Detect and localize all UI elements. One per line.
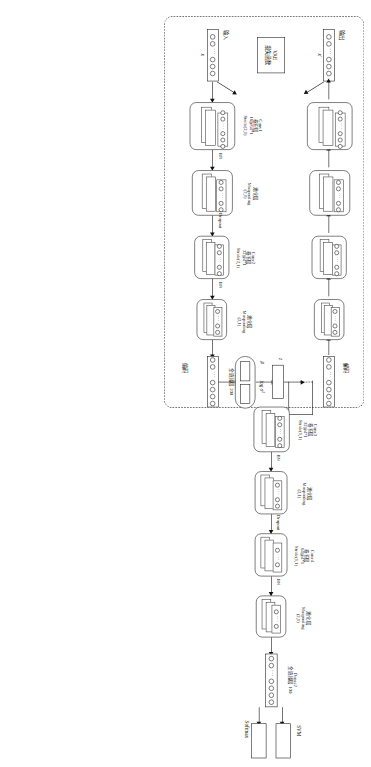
ellipsis: ··· [221,123,226,129]
neuron [275,497,280,502]
arrow-conv3-to-pool3 [271,452,272,468]
neuron [221,138,226,143]
neuron [327,380,332,385]
neuron [275,548,280,553]
arrow-decconv1-to-output [329,82,330,99]
neuron [338,138,343,143]
neuron [217,265,222,270]
arrow-decdense-to-decpool2 [329,340,330,355]
layer-spec: 200 [229,388,234,395]
neuron [327,71,332,76]
neuron [221,131,226,136]
slab-front: ··· [334,180,344,213]
neuron [334,271,339,276]
ellipsis: ··· [334,316,339,322]
neuron [217,250,222,255]
neuron [333,324,338,329]
arrow-decconv2-to-decpool1 [329,216,330,233]
neuron [210,401,215,406]
neuron [210,41,215,46]
layer-label-conv1: Conv1 卷积层 16@64*1 Stride(2,1) [243,98,263,154]
neuron [269,700,274,705]
neuron [216,309,221,314]
svm-box[interactable] [276,723,291,758]
layer-block-conv2-encoder: ··· [194,236,229,279]
neuron [334,265,339,270]
neuron [336,207,341,212]
z-label: z [277,358,283,360]
arrow-pool4-to-dense2 [271,637,272,652]
neuron [217,271,222,276]
layer-label-conv2: Conv2 卷积层 32@4*1 Stride(2,1) [236,231,256,284]
layer-cn-type: 池化层 [247,315,252,329]
vae-loss-line2: 损失函数 [265,45,271,66]
neuron [221,117,226,122]
logvar-box [240,384,250,404]
neuron [274,624,279,629]
layer-name: Conv4 [309,550,314,562]
layer-spec: Maxpooling [242,311,247,334]
ellipsis: ··· [338,123,343,129]
neuron [210,57,215,62]
softmax-box[interactable] [251,723,266,758]
neuron [277,422,282,427]
neuron [275,503,280,508]
slab-front: ··· [273,481,282,511]
figure-canvas: ··· 输入 x ··· 输出 x' VAE 损失函数 ··· [0,0,371,767]
connector-label-bn-1: BN [217,153,222,159]
layer-stride: Stride(1,1) [294,546,299,566]
decoder-dense-vector: ··· [323,356,335,407]
ellipsis: ··· [275,616,280,622]
neuron [269,693,274,698]
neuron [277,416,282,421]
layer-block-pool2-decoder: ··· [314,299,344,340]
neuron [221,144,226,149]
slab-mid [266,413,275,447]
layer-block-pool4: ··· [256,596,286,638]
layer-label-dense2: Dense2 全连接层 100 [288,651,298,709]
slab-front: ··· [216,180,226,213]
layer-block-conv2-decoder: ··· [312,236,347,279]
arrow-pool1-to-conv2 [212,216,213,233]
neuron [210,380,215,385]
layer-stride: Stride(1,1) [298,420,303,440]
arrow-dense2-to-svm [282,707,283,722]
neuron [210,357,215,362]
neuron [333,330,338,335]
dense2-vector: ··· [265,654,277,707]
arrow-dense1-to-latent [219,382,236,383]
neuron [327,57,332,62]
slab-front: ··· [272,605,281,633]
z-dashed-link [300,382,313,383]
layer-spec: 100 [288,686,293,693]
layer-name: Conv1 [258,119,263,131]
mu-box [240,361,250,381]
layer-stride: (2,1) [297,489,302,498]
vae-loss-line1: VAE [272,50,278,60]
arrow-decpool1-to-decconv1 [329,150,330,167]
connector-label-bn-4: BN [276,579,281,585]
slab-mid [323,110,333,146]
layer-block-pool1-decoder: ··· [309,170,350,215]
layer-stride: (2,1) [296,614,301,623]
neuron [277,437,282,442]
neuron [334,244,339,249]
mu-label: μ [260,361,266,364]
layer-cn-type: 池化层 [252,187,257,201]
neuron [216,324,221,329]
layer-spec: Maxpooling [302,483,307,506]
layer-block-conv3: ··· [254,407,290,452]
ellipsis: ··· [327,48,332,55]
softmax-label: Softmax [243,721,249,739]
layer-block-pool3: ··· [255,471,288,514]
ellipsis: ··· [216,316,221,322]
slab-front: ··· [273,543,282,573]
neuron [277,443,282,448]
arrow-input-to-conv1 [212,82,213,99]
layer-spec: Maxpooling [301,607,306,630]
slab-front: ··· [275,416,284,448]
arrow-conv1-to-pool1 [212,150,213,167]
ellipsis: ··· [269,670,274,677]
layer-cn-type: 卷积层 [304,549,309,563]
neuron [334,250,339,255]
